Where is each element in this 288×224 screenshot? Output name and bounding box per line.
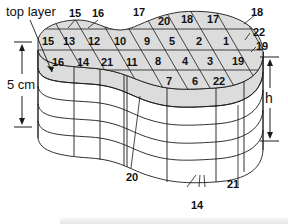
callout-19: 19 [256,40,268,52]
cell-2: 2 [196,35,202,47]
callout-22: 22 [253,26,265,38]
callout-15: 15 [69,7,81,19]
cell-4: 4 [182,55,189,67]
cell-7: 7 [166,75,172,87]
callout-20: 20 [126,171,138,183]
arrow-up-icon [19,44,25,51]
cell-20: 20 [158,15,170,27]
cell-10: 10 [114,35,126,47]
cell-16: 16 [52,56,64,68]
cell-12: 12 [88,35,100,47]
arrow-down-icon [19,118,25,125]
cell-3: 3 [207,55,213,67]
layered-cake-diagram: 15 13 12 10 9 5 2 1 16 14 21 11 8 4 3 19… [0,0,288,224]
cell-6: 6 [192,75,198,87]
height-5cm-label: 5 cm [7,77,35,92]
cell-8: 8 [155,55,161,67]
cell-11: 11 [126,56,138,68]
cell-15: 15 [42,35,54,47]
cell-5: 5 [169,35,175,47]
cell-14: 14 [77,56,90,68]
cell-17: 17 [207,13,219,25]
cell-22: 22 [213,75,225,87]
callout-17: 17 [133,6,145,18]
cell-13: 13 [63,35,75,47]
cell-9: 9 [144,35,150,47]
cell-18: 18 [181,13,193,25]
callout-21: 21 [227,178,239,190]
callout-14: 14 [191,199,204,211]
cell-1: 1 [223,35,229,47]
callout-16: 16 [92,7,104,19]
callout-18: 18 [251,6,263,18]
cell-21: 21 [101,56,113,68]
arrow-down-icon [267,132,273,139]
top-layer-label: top layer [6,4,57,19]
arrow-up-icon [267,59,273,66]
bottom-edge [60,218,288,224]
cell-19: 19 [232,55,244,67]
height-h-label: h [265,90,273,106]
